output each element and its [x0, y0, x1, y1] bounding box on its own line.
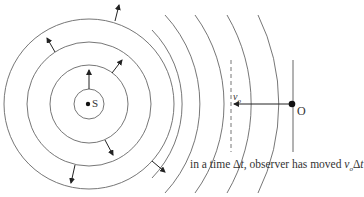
- observer-dot: [289, 101, 296, 108]
- arrow-icon: [71, 165, 75, 183]
- arrow-icon: [105, 140, 113, 155]
- caption-t2: t: [360, 158, 363, 170]
- caption-prefix: in a time Δ: [190, 158, 241, 170]
- source-label: S: [92, 98, 98, 109]
- arrow-icon: [112, 60, 122, 73]
- caption-middle: , observer has moved: [244, 158, 345, 170]
- source-dot: [86, 102, 90, 106]
- observer-label: O: [297, 105, 306, 117]
- arrow-icon: [115, 5, 119, 21]
- caption: in a time Δt, observer has moved voΔt: [190, 158, 364, 173]
- velocity-label: vo: [233, 92, 241, 105]
- velocity-subscript: o: [237, 97, 241, 105]
- propagation-arrows: [47, 5, 165, 183]
- arrow-icon: [47, 38, 55, 52]
